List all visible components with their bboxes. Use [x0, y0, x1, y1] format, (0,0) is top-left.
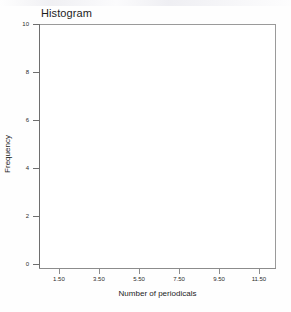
chart-title: Histogram [41, 7, 92, 20]
plot-frame [39, 24, 276, 269]
x-tick-mark [259, 269, 260, 274]
x-tick-mark [139, 269, 140, 274]
x-tick-mark [99, 269, 100, 274]
y-tick-mark [33, 120, 39, 121]
x-tick-label: 7.50 [159, 275, 199, 283]
y-tick-label: 2 [7, 213, 29, 220]
x-tick-label: 3.50 [79, 275, 119, 283]
y-tick-label: 0 [7, 261, 29, 268]
y-tick-mark [33, 72, 39, 73]
y-axis-title: Frequency [3, 114, 13, 194]
x-tick-label: 9.50 [199, 275, 239, 283]
y-tick-mark [33, 168, 39, 169]
x-tick-mark [179, 269, 180, 274]
x-tick-label: 5.50 [119, 275, 159, 283]
x-axis-line [39, 268, 276, 269]
y-tick-mark [33, 264, 39, 265]
y-tick-label: 10 [7, 21, 29, 28]
x-tick-mark [59, 269, 60, 274]
x-tick-mark [219, 269, 220, 274]
y-axis-line [39, 24, 40, 269]
scan-artifact [0, 0, 291, 6]
y-tick-label: 8 [7, 69, 29, 76]
x-tick-label: 1.50 [39, 275, 79, 283]
histogram-chart: Histogram 1086420 1.503.505.507.509.5011… [0, 0, 291, 312]
x-tick-label: 11.50 [239, 275, 279, 283]
y-tick-mark [33, 216, 39, 217]
y-tick-mark [33, 24, 39, 25]
plot-area [39, 25, 275, 269]
x-axis-title: Number of periodicals [39, 289, 276, 299]
